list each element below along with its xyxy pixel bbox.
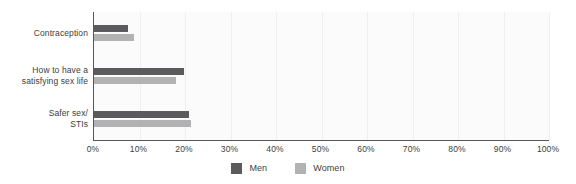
bar-men	[94, 68, 184, 75]
x-tick-label: 30%	[221, 143, 238, 155]
bar-group	[94, 55, 549, 98]
x-tick-label: 90%	[494, 143, 511, 155]
bar-men	[94, 111, 189, 118]
x-axis-tick-labels: 0%10%20%30%40%50%60%70%80%90%100%	[0, 143, 576, 157]
bar-rows	[94, 12, 549, 140]
x-tick-label: 60%	[357, 143, 374, 155]
legend-item-women[interactable]: Women	[295, 163, 344, 174]
category-label-line: Contraception	[0, 28, 88, 39]
category-label-line: STIs	[0, 119, 88, 130]
gridline	[549, 12, 550, 140]
bar-women	[94, 120, 191, 127]
category-axis-labels: ContraceptionHow to have asatisfying sex…	[0, 12, 88, 140]
x-tick-label: 100%	[537, 143, 559, 155]
legend-swatch-icon	[295, 163, 306, 174]
bar-group	[94, 97, 549, 140]
x-tick-label: 20%	[175, 143, 192, 155]
bar-women	[94, 77, 176, 84]
x-tick-label: 10%	[130, 143, 147, 155]
x-tick-label: 50%	[312, 143, 329, 155]
category-label-line: Safer sex/	[0, 108, 88, 119]
bar-chart: ContraceptionHow to have asatisfying sex…	[0, 0, 576, 184]
category-label: How to have asatisfying sex life	[0, 65, 88, 87]
bar-men	[94, 25, 128, 32]
legend-swatch-icon	[231, 163, 242, 174]
chart-legend: MenWomen	[0, 163, 576, 174]
x-tick-label: 80%	[448, 143, 465, 155]
category-label: Safer sex/STIs	[0, 108, 88, 130]
plot-area	[93, 12, 549, 141]
legend-item-men[interactable]: Men	[231, 163, 267, 174]
legend-label: Women	[313, 163, 344, 174]
x-tick-label: 70%	[403, 143, 420, 155]
category-label-line: satisfying sex life	[0, 76, 88, 87]
bar-group	[94, 12, 549, 55]
bar-women	[94, 34, 134, 41]
x-tick-label: 0%	[87, 143, 100, 155]
x-tick-label: 40%	[266, 143, 283, 155]
legend-label: Men	[249, 163, 267, 174]
category-label-line: How to have a	[0, 65, 88, 76]
category-label: Contraception	[0, 28, 88, 39]
